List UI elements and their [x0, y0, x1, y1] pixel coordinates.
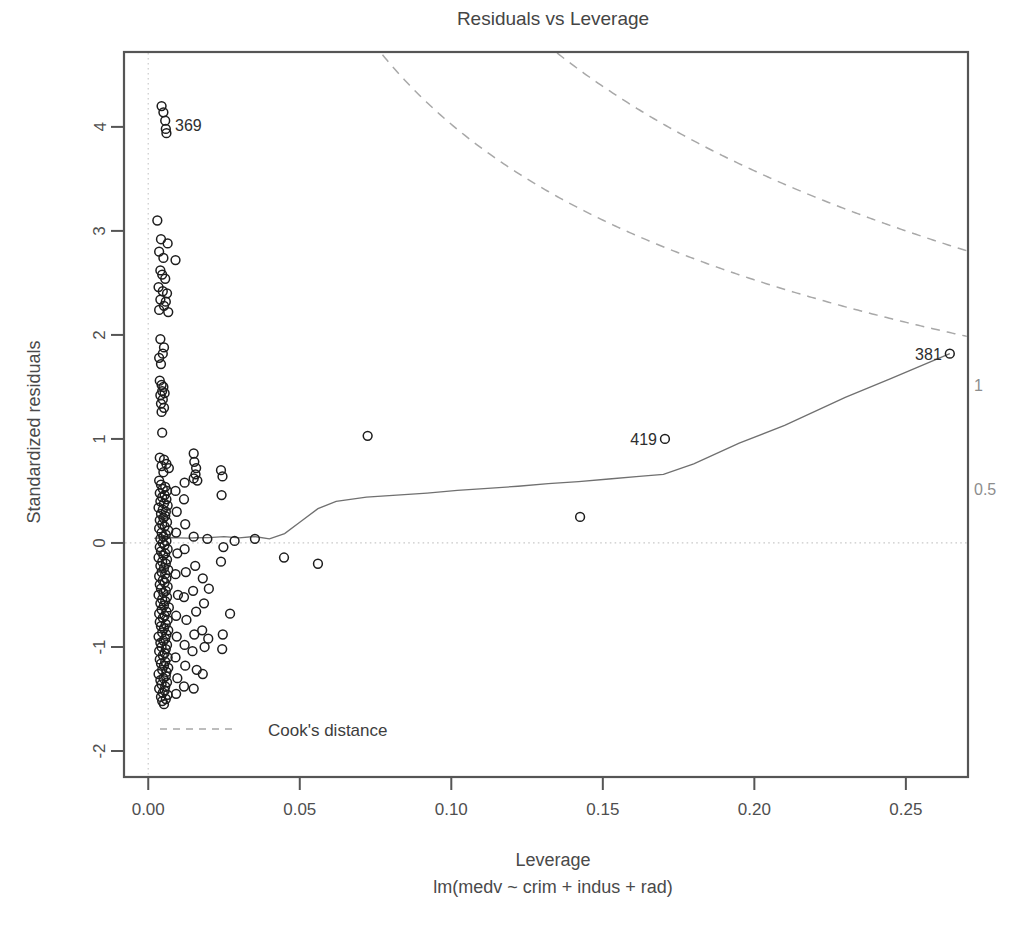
- point-label-369: 369: [175, 117, 202, 134]
- x-tick-label: 0.25: [889, 800, 922, 819]
- plot-background: [0, 0, 1013, 929]
- residuals-vs-leverage-plot: Residuals vs Leverage 369419381 10.5 0.0…: [0, 0, 1013, 929]
- y-tick-label: -2: [90, 743, 109, 758]
- y-tick-label: 3: [90, 226, 109, 235]
- y-tick-label: 2: [90, 330, 109, 339]
- chart-title: Residuals vs Leverage: [457, 8, 649, 29]
- x-tick-label: 0.10: [435, 800, 468, 819]
- x-axis-subtitle: lm(medv ~ crim + indus + rad): [433, 877, 673, 897]
- cook-level-label-0_5: 0.5: [974, 481, 996, 498]
- y-tick-label: 1: [91, 434, 110, 443]
- x-axis-title: Leverage: [515, 850, 590, 870]
- y-tick-label: 4: [91, 122, 110, 131]
- y-axis-title: Standardized residuals: [24, 340, 44, 523]
- x-tick-label: 0.05: [283, 800, 316, 819]
- x-tick-label: 0.00: [132, 800, 165, 819]
- figure-canvas: Residuals vs Leverage 369419381 10.5 0.0…: [0, 0, 1013, 929]
- point-label-381: 381: [915, 346, 942, 363]
- cooks-distance-legend-label: Cook's distance: [268, 721, 387, 740]
- point-label-419: 419: [630, 431, 657, 448]
- cook-level-label-1: 1: [974, 377, 983, 394]
- y-tick-label: -1: [90, 639, 109, 654]
- y-tick-label: 0: [91, 538, 110, 547]
- x-tick-label: 0.20: [738, 800, 771, 819]
- x-tick-label: 0.15: [586, 800, 619, 819]
